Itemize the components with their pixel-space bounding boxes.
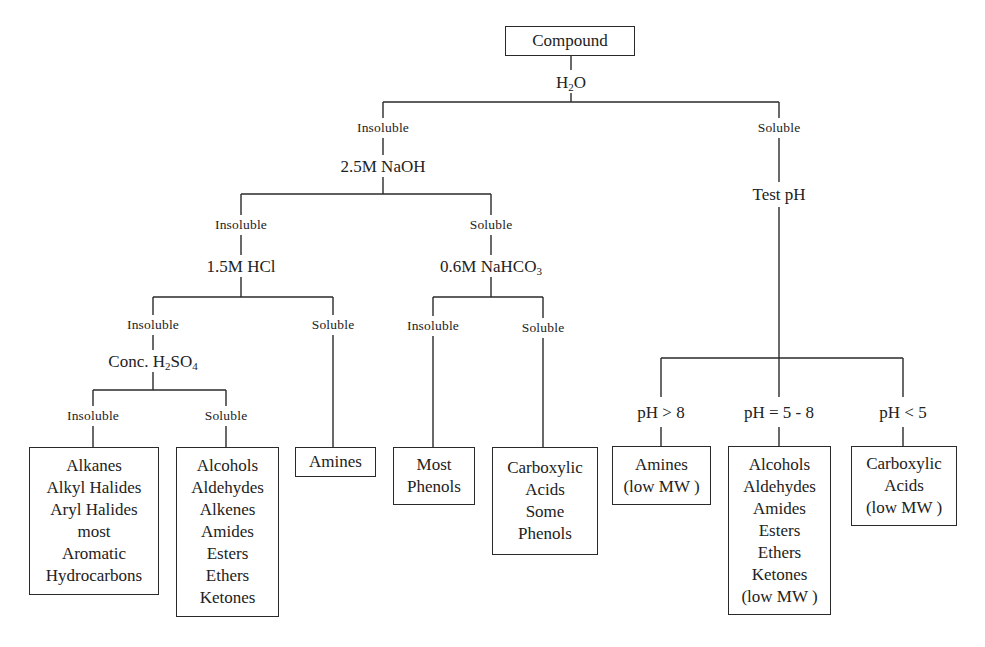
hcl-soluble-box: Amines (295, 447, 376, 477)
ph-low-box: Carboxylic Acids (low MW ) (851, 446, 957, 526)
naoh-insoluble-label: Insoluble (213, 217, 269, 233)
h2so4-reagent: Conc. H2SO4 (106, 352, 199, 371)
h2so4-soluble-box: Alcohols Aldehydes Alkenes Amides Esters… (176, 447, 279, 617)
compound-label: Compound (532, 30, 608, 52)
ph-low-label: pH < 5 (877, 403, 928, 422)
h2so4-soluble-label: Soluble (203, 408, 250, 424)
ph-mid-box: Alcohols Aldehydes Amides Esters Ethers … (728, 446, 831, 615)
nahco3-soluble-box: Carboxylic Acids Some Phenols (492, 447, 598, 555)
hcl-insoluble-label: Insoluble (125, 317, 181, 333)
water-soluble-label: Soluble (756, 120, 803, 136)
ph-mid-label: pH = 5 - 8 (742, 403, 816, 422)
nahco3-reagent: 0.6M NaHCO3 (438, 257, 544, 276)
naoh-reagent: 2.5M NaOH (339, 157, 428, 176)
nahco3-insoluble-box: Most Phenols (393, 447, 475, 505)
compound-box: Compound (505, 26, 635, 56)
water-reagent: H2O (554, 73, 588, 92)
nahco3-soluble-label: Soluble (520, 320, 567, 336)
ph-high-box: Amines (low MW ) (612, 446, 711, 505)
ph-high-label: pH > 8 (635, 403, 686, 422)
test-ph-reagent: Test pH (750, 185, 807, 204)
naoh-soluble-label: Soluble (468, 217, 515, 233)
nahco3-insoluble-label: Insoluble (405, 318, 461, 334)
hcl-soluble-label: Soluble (310, 317, 357, 333)
hcl-reagent: 1.5M HCl (205, 257, 278, 276)
water-insoluble-label: Insoluble (355, 120, 411, 136)
h2so4-insoluble-label: Insoluble (65, 408, 121, 424)
h2so4-insoluble-box: Alkanes Alkyl Halides Aryl Halides most … (29, 447, 159, 595)
